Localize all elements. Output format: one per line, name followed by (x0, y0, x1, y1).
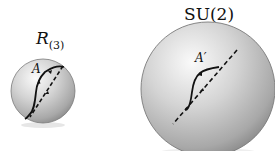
spheres-diagram: A A′ (0, 0, 275, 151)
point-label-a: A (31, 62, 41, 76)
sphere-r3-body (11, 59, 75, 123)
sphere-su2-body (141, 22, 275, 151)
sphere-r3: A (11, 59, 75, 128)
point-label-a-prime: A′ (194, 51, 207, 65)
sphere-su2: A′ (141, 22, 275, 151)
